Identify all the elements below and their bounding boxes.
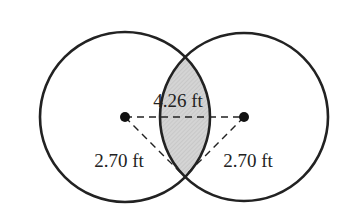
left-radius-label: 2.70 ft [94, 150, 144, 171]
overlapping-circles-diagram: 4.26 ft 2.70 ft 2.70 ft [0, 0, 341, 210]
left-center-dot [120, 112, 130, 122]
center-distance-label: 4.26 ft [153, 90, 203, 111]
right-center-dot [239, 112, 249, 122]
right-radius-label: 2.70 ft [223, 150, 273, 171]
